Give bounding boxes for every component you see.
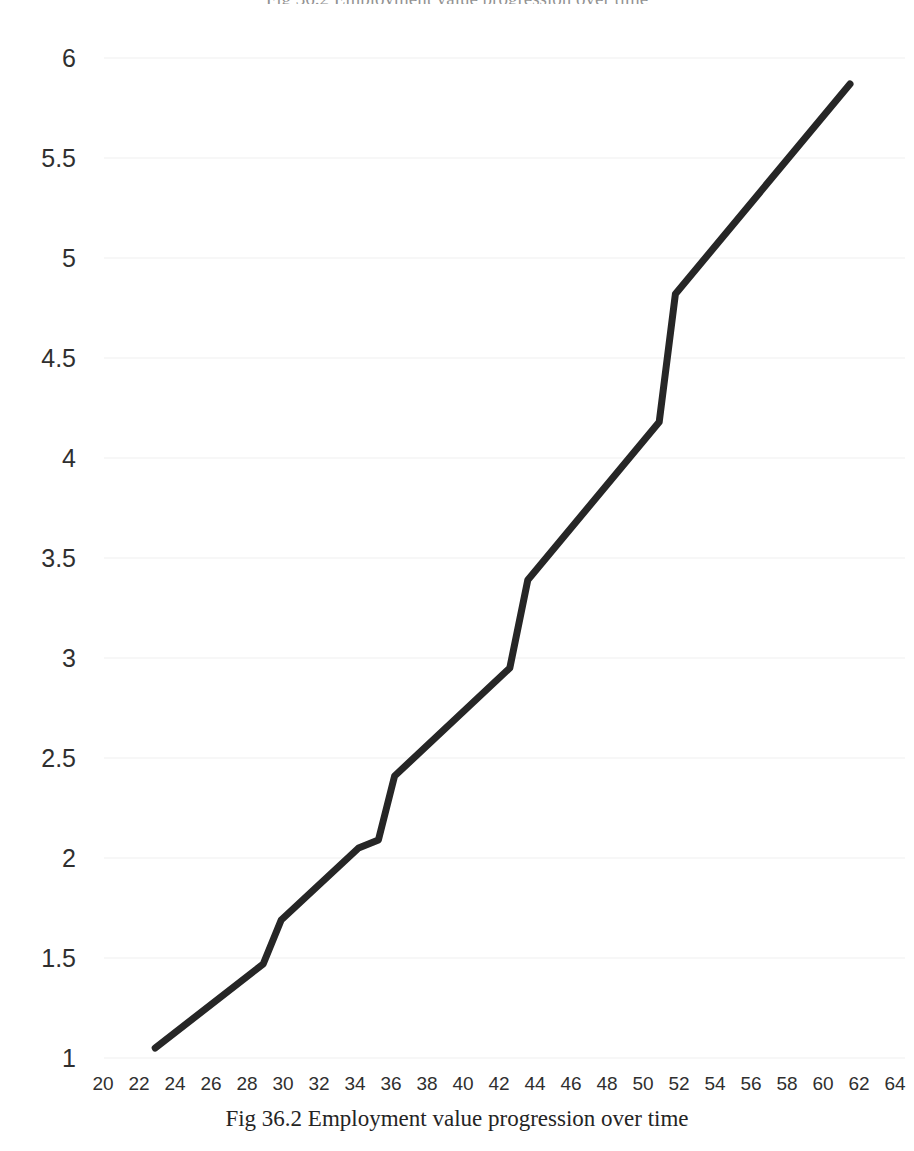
x-tick-label: 56 bbox=[731, 1073, 771, 1095]
x-tick-label: 34 bbox=[335, 1073, 375, 1095]
x-tick-label: 54 bbox=[695, 1073, 735, 1095]
x-tick-label: 42 bbox=[479, 1073, 519, 1095]
x-tick-label: 38 bbox=[407, 1073, 447, 1095]
x-tick-label: 50 bbox=[623, 1073, 663, 1095]
x-tick-label: 64 bbox=[875, 1073, 914, 1095]
x-tick-label: 60 bbox=[803, 1073, 843, 1095]
y-axis-tick-labels: 11.522.533.544.555.56 bbox=[12, 0, 76, 1080]
data-line-employment-value bbox=[155, 84, 850, 1048]
line-chart-canvas bbox=[0, 0, 914, 1080]
y-tick-label: 5 bbox=[12, 244, 76, 273]
y-tick-label: 4.5 bbox=[12, 344, 76, 373]
x-tick-label: 22 bbox=[119, 1073, 159, 1095]
y-tick-label: 1.5 bbox=[12, 944, 76, 973]
y-tick-label: 2.5 bbox=[12, 744, 76, 773]
x-tick-label: 32 bbox=[299, 1073, 339, 1095]
y-tick-label: 3 bbox=[12, 644, 76, 673]
y-tick-label: 3.5 bbox=[12, 544, 76, 573]
x-axis-tick-labels: 2022242628303234363840424446485052545658… bbox=[0, 1073, 914, 1099]
x-tick-label: 40 bbox=[443, 1073, 483, 1095]
x-tick-label: 36 bbox=[371, 1073, 411, 1095]
figure-root: Fig 36.2 Employment value progression ov… bbox=[0, 0, 914, 1151]
x-tick-label: 58 bbox=[767, 1073, 807, 1095]
gridlines-group bbox=[104, 58, 905, 1058]
x-tick-label: 48 bbox=[587, 1073, 627, 1095]
y-tick-label: 6 bbox=[12, 44, 76, 73]
x-tick-label: 30 bbox=[263, 1073, 303, 1095]
y-tick-label: 1 bbox=[12, 1044, 76, 1073]
x-tick-label: 46 bbox=[551, 1073, 591, 1095]
x-tick-label: 20 bbox=[83, 1073, 123, 1095]
x-tick-label: 24 bbox=[155, 1073, 195, 1095]
figure-caption: Fig 36.2 Employment value progression ov… bbox=[0, 1106, 914, 1132]
x-tick-label: 44 bbox=[515, 1073, 555, 1095]
data-series-group bbox=[155, 84, 850, 1048]
y-tick-label: 4 bbox=[12, 444, 76, 473]
x-tick-label: 26 bbox=[191, 1073, 231, 1095]
y-tick-label: 5.5 bbox=[12, 144, 76, 173]
x-tick-label: 52 bbox=[659, 1073, 699, 1095]
x-tick-label: 62 bbox=[839, 1073, 879, 1095]
y-tick-label: 2 bbox=[12, 844, 76, 873]
x-tick-label: 28 bbox=[227, 1073, 267, 1095]
plot-area: 11.522.533.544.555.56 bbox=[0, 0, 914, 1080]
